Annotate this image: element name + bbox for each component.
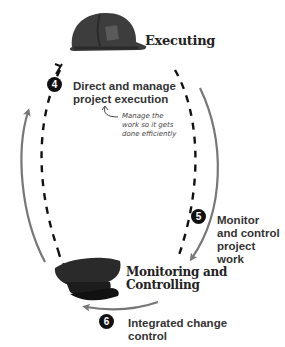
arrow-change-control xyxy=(86,302,158,309)
step-5-line-2: and control xyxy=(217,227,280,240)
step-4-label: Direct and manage project execution xyxy=(73,80,176,106)
step-badge-5: 5 xyxy=(191,209,206,224)
step-4-line-2: project execution xyxy=(73,93,176,106)
step-6-label: Integrated change control xyxy=(128,317,227,343)
note-line-1: Manage the xyxy=(122,112,176,121)
step-5-label: Monitor and control project work xyxy=(217,214,280,266)
cycle-diagram xyxy=(0,0,285,347)
step-badge-4: 4 xyxy=(47,77,62,92)
hard-hat-icon xyxy=(70,13,146,51)
step-4-line-1: Direct and manage xyxy=(73,80,176,93)
step-6-line-1: Integrated change xyxy=(128,317,227,330)
note-line-3: done efficiently xyxy=(122,130,176,139)
phase-label-monitoring: Monitoring and Controlling xyxy=(126,266,227,292)
note-line-2: work so it gets xyxy=(122,121,176,130)
note-annotation: Manage the work so it gets done efficien… xyxy=(122,112,176,139)
step-6-line-2: control xyxy=(128,330,227,343)
officer-cap-icon xyxy=(55,258,121,301)
step-5-line-1: Monitor xyxy=(217,214,280,227)
step-5-line-3: project xyxy=(217,240,280,253)
arrow-to-monitoring xyxy=(192,88,218,258)
phase-monitoring-line-2: Controlling xyxy=(126,279,227,292)
arrow-to-executing xyxy=(21,112,45,262)
step-badge-6: 6 xyxy=(99,314,114,329)
note-pointer-arrow xyxy=(100,105,120,121)
phase-label-executing: Executing xyxy=(145,33,215,48)
